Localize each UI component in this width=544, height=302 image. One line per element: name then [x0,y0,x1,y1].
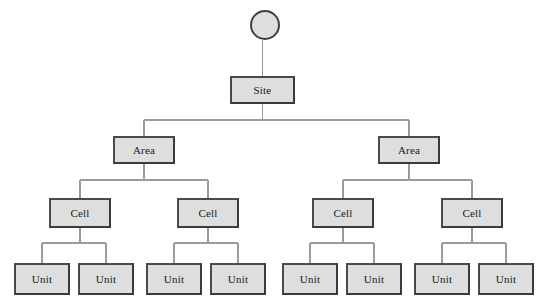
node-label: Unit [228,274,248,285]
root-circle-node[interactable] [250,10,280,40]
node-unit-6[interactable]: Unit [346,263,402,295]
node-label: Cell [333,208,352,219]
node-label: Cell [198,208,217,219]
node-cell-1[interactable]: Cell [49,198,111,228]
node-unit-1[interactable]: Unit [14,263,70,295]
node-cell-3[interactable]: Cell [312,198,374,228]
node-label: Unit [300,274,320,285]
node-label: Unit [164,274,184,285]
node-label: Cell [70,208,89,219]
connector-layer [0,0,544,302]
node-unit-5[interactable]: Unit [282,263,338,295]
node-label: Cell [462,208,481,219]
node-label: Area [398,145,420,156]
node-label: Area [133,145,155,156]
node-label: Unit [96,274,116,285]
node-unit-7[interactable]: Unit [414,263,470,295]
hierarchy-diagram: Site Area Area Cell Cell Cell Cell Unit … [0,0,544,302]
node-site-1[interactable]: Site [230,76,295,104]
node-label: Unit [432,274,452,285]
node-unit-4[interactable]: Unit [210,263,266,295]
node-area-2[interactable]: Area [378,136,440,164]
node-unit-8[interactable]: Unit [478,263,534,295]
node-cell-2[interactable]: Cell [177,198,239,228]
node-unit-3[interactable]: Unit [146,263,202,295]
node-area-1[interactable]: Area [113,136,175,164]
node-label: Site [254,85,272,96]
node-unit-2[interactable]: Unit [78,263,134,295]
node-label: Unit [32,274,52,285]
node-label: Unit [364,274,384,285]
node-label: Unit [496,274,516,285]
node-cell-4[interactable]: Cell [441,198,503,228]
